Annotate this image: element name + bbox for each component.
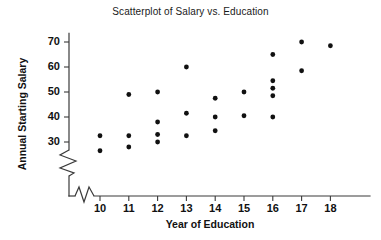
data-point (126, 92, 131, 97)
y-tick-label: 70 (48, 35, 60, 47)
data-points (98, 40, 333, 154)
y-tick-label: 40 (48, 110, 60, 122)
y-tick-label: 60 (48, 60, 60, 72)
data-point (270, 86, 275, 91)
x-axis: 101112131415161718 (69, 187, 370, 214)
x-tick-label: 13 (180, 202, 192, 214)
data-point (270, 93, 275, 98)
data-point (299, 68, 304, 73)
data-point (270, 78, 275, 83)
plot-area: 3040506070 101112131415161718 (0, 0, 381, 240)
data-point (98, 148, 103, 153)
x-tick-label: 18 (324, 202, 336, 214)
data-point (242, 113, 247, 118)
data-point (126, 133, 131, 138)
scatterplot-figure: Scatterplot of Salary vs. Education Annu… (0, 0, 381, 240)
y-tick-label: 30 (48, 135, 60, 147)
data-point (98, 133, 103, 138)
data-point (155, 120, 160, 125)
y-tick-label: 50 (48, 85, 60, 97)
data-point (184, 111, 189, 116)
data-point (213, 115, 218, 120)
data-point (270, 52, 275, 57)
data-point (213, 128, 218, 133)
x-tick-label: 10 (94, 202, 106, 214)
x-tick-label: 16 (267, 202, 279, 214)
y-axis: 3040506070 (48, 33, 76, 196)
x-tick-label: 14 (209, 202, 222, 214)
x-tick-label: 17 (295, 202, 307, 214)
data-point (242, 90, 247, 95)
x-tick-label: 11 (123, 202, 135, 214)
data-point (184, 65, 189, 70)
data-point (155, 132, 160, 137)
data-point (328, 43, 333, 48)
data-point (155, 140, 160, 145)
x-tick-label: 12 (151, 202, 163, 214)
data-point (184, 133, 189, 138)
data-point (213, 96, 218, 101)
data-point (126, 145, 131, 150)
data-point (270, 115, 275, 120)
x-tick-label: 15 (238, 202, 250, 214)
data-point (299, 40, 304, 45)
data-point (155, 90, 160, 95)
